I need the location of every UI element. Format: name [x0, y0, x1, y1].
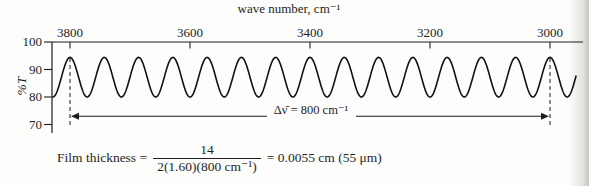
formula-result: = 0.0055 cm (55 μm): [267, 150, 382, 166]
formula-prefix: Film thickness =: [57, 150, 147, 166]
arrowhead-right: [541, 113, 549, 120]
film-thickness-formula: Film thickness = 14 2(1.60)(800 cm⁻¹) = …: [57, 142, 382, 174]
formula-denominator: 2(1.60)(800 cm⁻¹): [153, 158, 261, 175]
formula-fraction: 14 2(1.60)(800 cm⁻¹): [153, 142, 261, 174]
y-tick-label: 80: [12, 89, 42, 105]
x-tick-label: 3200: [417, 25, 443, 41]
fringe-curve: [53, 57, 576, 97]
x-axis-title: wave number, cm⁻¹: [237, 1, 340, 17]
y-tick-label: 100: [12, 34, 42, 50]
y-tick-label: 90: [12, 62, 42, 78]
delta-wavenumber-annotation: Δν̄ = 800 cm⁻¹: [274, 102, 348, 118]
arrowhead-left: [71, 113, 79, 120]
x-tick-label: 3000: [537, 25, 563, 41]
x-tick-label: 3800: [57, 25, 83, 41]
y-tick-label: 70: [12, 117, 42, 133]
interference-fringe-figure: wave number, cm⁻¹ %T 3800360034003200300…: [0, 0, 589, 186]
x-tick-label: 3600: [177, 25, 203, 41]
formula-numerator: 14: [196, 142, 218, 158]
x-tick-label: 3400: [297, 25, 323, 41]
